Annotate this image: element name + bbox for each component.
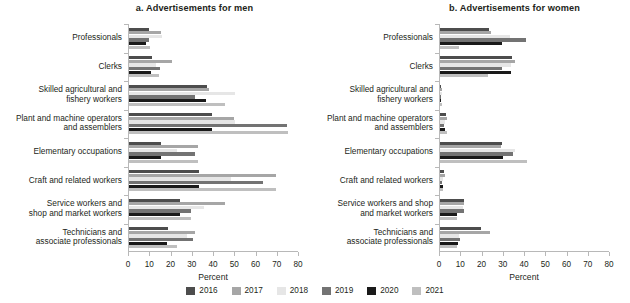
x-tick	[213, 252, 214, 256]
x-axis-title: Percent	[439, 272, 609, 282]
legend-swatch-icon	[186, 287, 195, 295]
category-label: Technicians and associate professionals	[347, 228, 439, 247]
category-label: Plant and machine operators and assemble…	[16, 114, 128, 133]
x-tick-label: 50	[541, 260, 550, 269]
x-tick-label: 40	[519, 260, 528, 269]
legend-item[interactable]: 2020	[367, 286, 398, 295]
x-tick	[439, 252, 440, 256]
bar-2021	[129, 46, 150, 49]
x-tick-label: 0	[126, 260, 131, 269]
bar-2021	[129, 188, 276, 191]
chart-panel-men: a. Advertisements for men 01020304050607…	[0, 0, 311, 278]
legend-item[interactable]: 2017	[232, 286, 263, 295]
x-tick-label: 30	[498, 260, 507, 269]
legend-swatch-icon	[322, 287, 331, 295]
category-label: Professionals	[72, 33, 128, 43]
x-axis-title: Percent	[128, 272, 298, 282]
chart-panel-women: b. Advertisements for women 010203040506…	[311, 0, 630, 278]
legend-swatch-icon	[412, 287, 421, 295]
x-tick-label: 60	[562, 260, 571, 269]
category-label: Clerks	[409, 62, 439, 72]
x-tick-label: 60	[251, 260, 260, 269]
category-label: Craft and related workers	[340, 176, 439, 186]
bar-2021	[129, 217, 191, 220]
y-tick	[124, 138, 128, 139]
bar-2021	[440, 245, 457, 248]
x-tick-label: 10	[456, 260, 465, 269]
x-tick	[256, 252, 257, 256]
x-tick	[545, 252, 546, 256]
plot-area-men: 01020304050607080PercentProfessionalsCle…	[128, 24, 298, 252]
legend-swatch-icon	[367, 287, 376, 295]
legend-item[interactable]: 2018	[277, 286, 308, 295]
figure-root: a. Advertisements for men 01020304050607…	[0, 0, 630, 303]
plot-area-women: 01020304050607080PercentProfessionalsCle…	[439, 24, 609, 252]
x-tick	[234, 252, 235, 256]
legend-item[interactable]: 2019	[322, 286, 353, 295]
y-tick	[435, 138, 439, 139]
y-tick	[435, 110, 439, 111]
bar-2021	[440, 160, 527, 163]
legend-label: 2016	[199, 286, 217, 295]
legend-label: 2019	[335, 286, 353, 295]
category-label: Elementary occupations	[344, 147, 439, 157]
category-label: Skilled agricultural and fishery workers	[350, 86, 439, 105]
y-tick	[124, 81, 128, 82]
x-tick-label: 10	[145, 260, 154, 269]
category-label: Clerks	[98, 62, 128, 72]
bar-2021	[440, 74, 488, 77]
x-tick	[192, 252, 193, 256]
legend-label: 2018	[290, 286, 308, 295]
y-tick	[124, 53, 128, 54]
x-tick	[149, 252, 150, 256]
category-label: Plant and machine operators and assemble…	[327, 114, 439, 133]
bar-2021	[129, 74, 159, 77]
panel-a-title: a. Advertisements for men	[0, 3, 311, 13]
legend-item[interactable]: 2021	[412, 286, 443, 295]
bar-2021	[440, 188, 443, 191]
legend-label: 2017	[245, 286, 263, 295]
x-tick-label: 80	[293, 260, 302, 269]
legend-label: 2021	[425, 286, 443, 295]
category-label: Elementary occupations	[33, 147, 128, 157]
x-tick	[524, 252, 525, 256]
x-tick	[128, 252, 129, 256]
bar-2021	[440, 131, 447, 134]
x-tick-label: 70	[583, 260, 592, 269]
bar-2021	[129, 245, 177, 248]
x-tick	[171, 252, 172, 256]
bar-2021	[129, 103, 225, 106]
x-tick-label: 20	[166, 260, 175, 269]
y-tick	[124, 24, 128, 25]
y-tick	[124, 167, 128, 168]
category-label: Technicians and associate professionals	[36, 228, 128, 247]
bar-2021	[440, 217, 457, 220]
x-tick	[277, 252, 278, 256]
category-label: Craft and related workers	[29, 176, 128, 186]
y-tick	[124, 110, 128, 111]
x-tick	[482, 252, 483, 256]
x-tick-label: 20	[477, 260, 486, 269]
y-tick	[435, 53, 439, 54]
x-tick	[609, 252, 610, 256]
y-tick	[435, 81, 439, 82]
chart-legend: 201620172018201920202021	[0, 286, 630, 295]
bar-2021	[440, 103, 442, 106]
x-tick-label: 50	[230, 260, 239, 269]
legend-swatch-icon	[277, 287, 286, 295]
legend-item[interactable]: 2016	[186, 286, 217, 295]
y-tick	[435, 24, 439, 25]
y-tick	[435, 224, 439, 225]
category-label: Service workers and shop and market work…	[338, 200, 439, 219]
x-tick	[503, 252, 504, 256]
x-tick-label: 0	[437, 260, 442, 269]
bar-2021	[129, 131, 288, 134]
category-label: Service workers and shop and market work…	[29, 200, 128, 219]
category-label: Skilled agricultural and fishery workers	[39, 86, 128, 105]
x-tick-label: 80	[604, 260, 613, 269]
bar-2021	[129, 160, 198, 163]
y-tick	[124, 195, 128, 196]
x-tick-label: 70	[272, 260, 281, 269]
panel-b-title: b. Advertisements for women	[311, 3, 630, 13]
legend-swatch-icon	[232, 287, 241, 295]
